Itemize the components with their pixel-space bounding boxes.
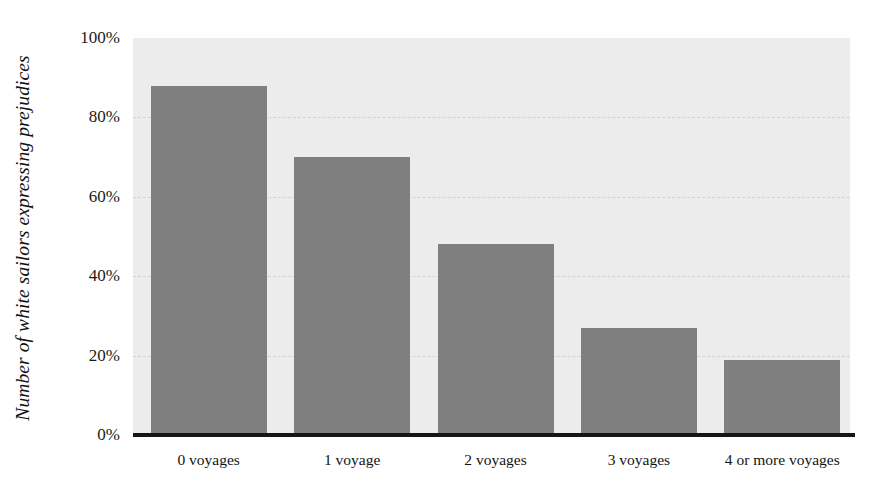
y-axis-tick-label: 40% — [89, 266, 120, 286]
x-axis-tick-label: 0 voyages — [177, 451, 239, 469]
y-axis-title-container: Number of white sailors expressing preju… — [0, 38, 46, 438]
x-axis-tick-label: 3 voyages — [608, 451, 670, 469]
y-axis-title: Number of white sailors expressing preju… — [12, 55, 34, 420]
y-axis-tick-labels: 100%80%60%40%20%0% — [48, 0, 128, 494]
y-axis-tick-label: 0% — [97, 425, 120, 445]
bar — [151, 86, 267, 435]
y-axis-tick-label: 80% — [89, 107, 120, 127]
x-axis-tick-label: 4 or more voyages — [725, 451, 840, 469]
plot-area — [133, 38, 850, 435]
bar — [724, 360, 840, 435]
x-axis-line — [133, 433, 855, 437]
y-axis-tick-label: 20% — [89, 346, 120, 366]
bar-chart-figure: Number of white sailors expressing preju… — [0, 0, 888, 494]
bar — [438, 244, 554, 435]
x-axis-tick-labels: 0 voyages1 voyage2 voyages3 voyages4 or … — [133, 443, 850, 483]
y-axis-tick-label: 60% — [89, 187, 120, 207]
bar — [581, 328, 697, 435]
x-axis-tick-label: 1 voyage — [324, 451, 380, 469]
x-axis-tick-label: 2 voyages — [464, 451, 526, 469]
bar — [294, 157, 410, 435]
y-axis-tick-label: 100% — [80, 28, 120, 48]
